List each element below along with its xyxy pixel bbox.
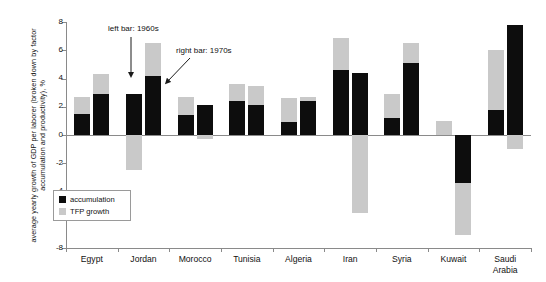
bar-segment-tfp-growth <box>281 98 297 122</box>
bar <box>178 22 194 248</box>
legend-item-tfp-growth: TFP growth <box>59 207 126 216</box>
bar-segment-tfp-growth <box>333 38 349 70</box>
bar-segment-accumulation <box>352 73 368 135</box>
bar <box>229 22 245 248</box>
x-tick-mark <box>118 248 119 252</box>
bar-segment-tfp-growth <box>93 74 109 94</box>
bar-segment-tfp-growth <box>507 135 523 149</box>
y-tick-label: -2 <box>56 158 63 167</box>
bar <box>300 22 316 248</box>
bar-segment-tfp-growth <box>126 135 142 170</box>
bar-segment-accumulation <box>229 101 245 135</box>
bar <box>488 22 504 248</box>
bar-segment-accumulation <box>403 63 419 135</box>
bar <box>197 22 213 248</box>
bar-segment-tfp-growth <box>74 97 90 114</box>
bar-segment-tfp-growth <box>145 43 161 75</box>
bar-group <box>324 22 376 248</box>
x-tick-mark <box>376 248 377 252</box>
bar <box>281 22 297 248</box>
bar-group <box>479 22 531 248</box>
annotation-left-bar: left bar: 1960s <box>108 24 159 33</box>
bar-segment-accumulation <box>126 94 142 135</box>
bar <box>145 22 161 248</box>
bar <box>248 22 264 248</box>
y-axis-label: average yearly growth of GDP per laborer… <box>29 25 48 245</box>
legend-swatch-accumulation-icon <box>59 196 66 203</box>
bar-segment-accumulation <box>488 110 504 135</box>
x-tick-mark <box>324 248 325 252</box>
bar-group <box>428 22 480 248</box>
y-tick-label: 2 <box>59 101 63 110</box>
chart-container: average yearly growth of GDP per laborer… <box>0 0 546 282</box>
x-tick-mark <box>66 248 67 252</box>
x-tick-mark <box>273 248 274 252</box>
legend-item-accumulation: accumulation <box>59 195 126 204</box>
legend: accumulation TFP growth <box>53 190 131 221</box>
bar-group <box>169 22 221 248</box>
bar-segment-accumulation <box>93 94 109 135</box>
bar <box>384 22 400 248</box>
bar <box>507 22 523 248</box>
y-tick-label: 4 <box>59 73 63 82</box>
annotation-right-bar: right bar: 1970s <box>176 46 232 55</box>
bar-segment-accumulation <box>281 122 297 135</box>
bar-segment-accumulation <box>74 114 90 135</box>
x-axis-category-label: SaudiArabia <box>465 254 545 275</box>
bar-segment-tfp-growth <box>300 97 316 101</box>
y-tick-label: 8 <box>59 17 63 26</box>
bar-segment-accumulation <box>178 115 194 135</box>
bar <box>455 22 471 248</box>
bar-segment-tfp-growth <box>384 94 400 118</box>
bar-segment-accumulation <box>455 135 471 183</box>
x-tick-mark <box>221 248 222 252</box>
bar-group <box>376 22 428 248</box>
x-tick-mark <box>169 248 170 252</box>
x-axis-line <box>66 248 531 249</box>
y-tick-label: 0 <box>59 130 63 139</box>
legend-label-tfp-growth: TFP growth <box>70 207 109 216</box>
bar-segment-accumulation <box>507 25 523 135</box>
y-tick-label: -8 <box>56 243 63 252</box>
bar-group <box>221 22 273 248</box>
bar-group <box>273 22 325 248</box>
bar-segment-tfp-growth <box>488 50 504 109</box>
y-tick-label: 6 <box>59 45 63 54</box>
bar-segment-tfp-growth <box>197 135 213 139</box>
bar-segment-tfp-growth <box>352 135 368 213</box>
bar-segment-tfp-growth <box>248 86 264 106</box>
bar-segment-tfp-growth <box>403 43 419 63</box>
x-tick-mark <box>479 248 480 252</box>
bar <box>403 22 419 248</box>
bar-segment-tfp-growth <box>229 84 245 101</box>
legend-label-accumulation: accumulation <box>70 195 115 204</box>
bar-segment-accumulation <box>197 105 213 135</box>
plot-area: 86420-2-4-6-8 <box>66 22 531 248</box>
bar-segment-tfp-growth <box>455 183 471 235</box>
bar-segment-accumulation <box>384 118 400 135</box>
x-tick-mark <box>531 248 532 252</box>
bar <box>333 22 349 248</box>
bar-segment-accumulation <box>300 101 316 135</box>
bar-segment-accumulation <box>145 76 161 135</box>
bar-segment-accumulation <box>333 70 349 135</box>
bar <box>352 22 368 248</box>
x-tick-mark <box>428 248 429 252</box>
bar-segment-accumulation <box>248 105 264 135</box>
bar-segment-tfp-growth <box>178 97 194 115</box>
legend-swatch-tfp-icon <box>59 208 66 215</box>
bar-segment-tfp-growth <box>436 121 452 135</box>
bar <box>436 22 452 248</box>
